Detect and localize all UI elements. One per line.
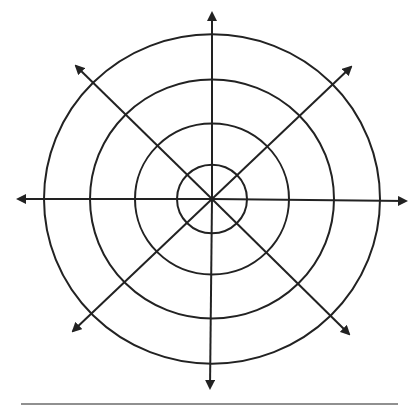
axis-down-left-arrow-icon (73, 199, 212, 331)
axis-down-arrow-icon (210, 199, 212, 388)
axis-right-arrow-icon (212, 199, 406, 201)
radial-axes (18, 13, 406, 388)
polar-grid-diagram (0, 0, 418, 406)
axis-up-left-arrow-icon (76, 66, 212, 199)
axis-up-right-arrow-icon (212, 67, 351, 199)
axis-down-right-arrow-icon (212, 199, 349, 334)
